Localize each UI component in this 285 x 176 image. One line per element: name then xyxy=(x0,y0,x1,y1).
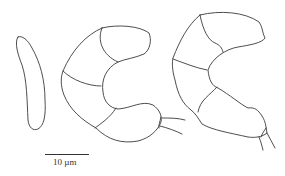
septum xyxy=(198,87,217,112)
appendage xyxy=(162,118,185,120)
specimen-drawing xyxy=(0,0,285,176)
appendage xyxy=(259,137,263,150)
scale-bar-label: 10 µm xyxy=(53,157,76,167)
appendage xyxy=(160,126,182,134)
septum xyxy=(200,15,223,52)
outer-outline xyxy=(61,26,161,142)
scale-bar xyxy=(45,154,89,155)
septum xyxy=(173,59,207,70)
septum xyxy=(95,108,116,128)
single-cell-outline xyxy=(16,37,45,130)
curved-specimen-2 xyxy=(172,12,275,150)
septum xyxy=(63,71,101,86)
septum xyxy=(100,28,118,62)
curved-specimen-1 xyxy=(61,26,185,142)
outer-outline xyxy=(172,12,267,137)
appendage xyxy=(267,133,275,148)
